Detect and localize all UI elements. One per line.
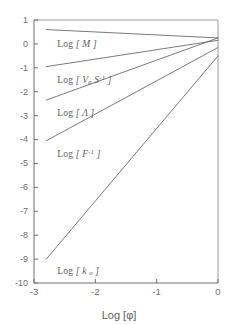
- y-tick-label: -2: [20, 87, 28, 97]
- x-tick-label: -2: [91, 286, 99, 297]
- data-line-0: [46, 30, 218, 38]
- curve-label-k-o: Log [ k o ]: [57, 266, 99, 276]
- x-tick-label: -1: [152, 286, 160, 297]
- x-tick-label: 0: [215, 286, 220, 297]
- data-lines: [46, 30, 218, 260]
- x-tick-labels: -3-2-10: [30, 286, 221, 297]
- y-tick-label: 1: [23, 15, 28, 25]
- y-tick-label: -6: [20, 182, 28, 192]
- curve-label-f-inverse: Log [ F-1 ]: [57, 148, 100, 159]
- x-axis-title: Log [φ]: [102, 309, 137, 321]
- x-tick-label: -3: [30, 286, 38, 297]
- y-tick-label: -3: [20, 111, 28, 121]
- data-line-3: [46, 47, 218, 140]
- curve-label-vp-s: Log [ Vp S-1 ]: [57, 74, 111, 85]
- y-tick-labels: 10-1-2-3-4-5-6-7-8-9-10: [15, 15, 28, 288]
- y-tick-label: -9: [20, 254, 28, 264]
- plot-svg: 10-1-2-3-4-5-6-7-8-9-10 -3-2-10 Log [φ]: [0, 0, 231, 325]
- curve-label-m: Log [ M ]: [57, 39, 97, 49]
- y-tick-label: 0: [23, 39, 28, 49]
- y-tick-label: -1: [20, 63, 28, 73]
- y-tick-label: -4: [20, 134, 28, 144]
- y-tick-label: -10: [15, 278, 28, 288]
- figure-container: 10-1-2-3-4-5-6-7-8-9-10 -3-2-10 Log [φ] …: [0, 0, 231, 325]
- curve-label-lambda: Log [ Λ ]: [57, 108, 94, 118]
- y-tick-label: -8: [20, 230, 28, 240]
- y-tick-label: -7: [20, 206, 28, 216]
- y-tick-label: -5: [20, 158, 28, 168]
